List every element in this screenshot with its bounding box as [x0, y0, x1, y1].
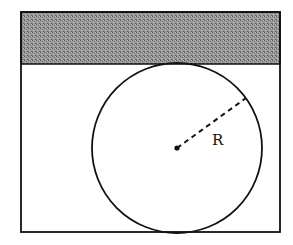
shaded-band [21, 12, 280, 64]
geometry-diagram: R [0, 0, 293, 245]
center-point [174, 145, 179, 150]
radius-label: R [212, 131, 224, 149]
